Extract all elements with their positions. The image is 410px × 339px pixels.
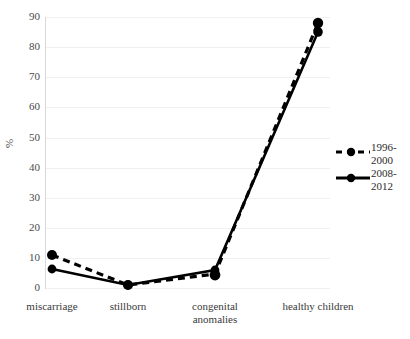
x-label-healthy-children: healthy children (270, 300, 366, 313)
data-point-2008-2012-stillborn (123, 280, 132, 289)
x-axis-labels: miscarriage stillborn congenital anomali… (45, 300, 330, 338)
legend-label-1996-2000: 1996- 2000 (371, 141, 410, 166)
legend-item-2008-2012[interactable]: 2008- 2012 (336, 169, 410, 195)
data-point-2008-2012-congenital (211, 266, 220, 275)
series-line-1996-2000 (52, 23, 318, 285)
x-label-congenital-anomalies: congenital anomalies (167, 300, 263, 326)
legend-swatch-solid (336, 172, 370, 184)
legend-label-2008-2012: 2008- 2012 (371, 167, 410, 192)
legend-label-1996-2000-line1: 1996- (371, 141, 397, 153)
legend-label-2008-2012-line2: 2012 (371, 180, 393, 192)
x-label-stillborn: stillborn (80, 300, 176, 313)
legend-item-1996-2000[interactable]: 1996- 2000 (336, 143, 410, 169)
data-point-2008-2012-miscarriage (48, 265, 57, 274)
x-label-congenital-line1: congenital (192, 300, 238, 312)
x-label-congenital-line2: anomalies (193, 313, 238, 325)
data-point-2008-2012-healthy (313, 27, 323, 37)
series-line-2008-2012 (52, 32, 318, 285)
legend: 1996- 2000 2008- 2012 (336, 143, 410, 195)
line-chart: 90 80 70 60 50 40 30 20 10 0 % miscarria… (0, 0, 410, 339)
data-point-1996-2000-healthy (313, 18, 323, 28)
data-point-1996-2000-miscarriage (47, 250, 57, 260)
legend-label-1996-2000-line2: 2000 (371, 154, 393, 166)
legend-swatch-dashed (336, 146, 370, 158)
legend-label-2008-2012-line1: 2008- (371, 167, 397, 179)
